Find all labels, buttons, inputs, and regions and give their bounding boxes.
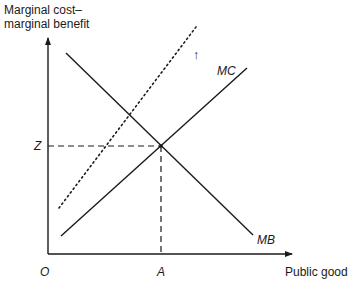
economics-diagram	[0, 0, 355, 287]
mb-label: MB	[257, 233, 275, 247]
a-tick-label: A	[157, 265, 165, 279]
z-tick-label: Z	[34, 139, 41, 153]
mb-curve	[66, 53, 253, 235]
shift-arrow-icon: ↑	[193, 47, 200, 62]
origin-label: O	[40, 265, 49, 279]
mc-curve	[61, 68, 247, 236]
equilibrium-point	[159, 144, 163, 148]
shifted-mc-curve	[59, 27, 196, 208]
y-axis-label: Marginal cost– marginal benefit	[4, 3, 89, 31]
mc-label: MC	[217, 64, 236, 78]
x-axis-label: Public good	[285, 265, 348, 279]
